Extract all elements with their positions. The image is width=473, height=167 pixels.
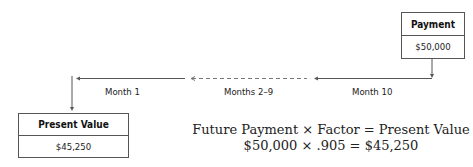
payment-value: $50,000 (402, 36, 464, 58)
label-months-2-9: Months 2–9 (224, 86, 273, 97)
payment-box: Payment $50,000 (401, 12, 465, 59)
label-month-10: Month 10 (352, 86, 392, 97)
label-month-1: Month 1 (105, 86, 140, 97)
present-value-title: Present Value (19, 114, 128, 136)
payment-title: Payment (402, 13, 464, 36)
present-value-box: Present Value $45,250 (18, 113, 129, 158)
present-value-value: $45,250 (19, 136, 128, 157)
formula-line-2: $50,000 × .905 = $45,250 (181, 138, 473, 153)
formula-line-1: Future Payment × Factor = Present Value (181, 122, 473, 137)
